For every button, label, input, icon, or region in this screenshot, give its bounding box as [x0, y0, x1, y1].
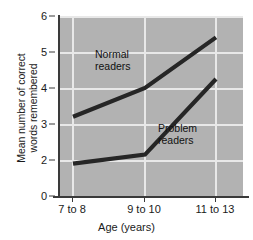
- y-tick-label-0: 0: [41, 191, 47, 202]
- y-tick-label-3: 3: [41, 119, 47, 130]
- x-tick-label-9-to-10: 9 to 10: [127, 204, 161, 215]
- y-tick-label-2: 2: [41, 155, 47, 166]
- plot-area: Normal readers Problem readers: [60, 16, 243, 196]
- x-axis-line: [53, 196, 249, 198]
- y-tick-mark-3: [49, 124, 55, 125]
- x-tick-mark-7-to-8: [72, 196, 73, 202]
- y-tick-mark-2: [49, 160, 55, 161]
- y-tick-label-6: 6: [41, 11, 47, 22]
- series-lines: [60, 16, 243, 196]
- y-tick-label-4: 4: [41, 83, 47, 94]
- x-tick-label-7-to-8: 7 to 8: [58, 204, 86, 215]
- y-axis-tick-labels: 6 5 4 3 2 0: [0, 0, 58, 240]
- series-line-problem-readers: [73, 79, 216, 164]
- x-axis-title: Age (years): [0, 222, 253, 233]
- y-tick-mark-5: [49, 52, 55, 53]
- y-tick-label-5: 5: [41, 47, 47, 58]
- y-tick-mark-4: [49, 88, 55, 89]
- x-tick-mark-11-to-13: [215, 196, 216, 202]
- y-tick-mark-6: [49, 16, 55, 17]
- x-tick-label-11-to-13: 11 to 13: [196, 204, 235, 215]
- chart-figure: Mean number of correct words remembered …: [0, 0, 253, 240]
- x-tick-mark-9-to-10: [144, 196, 145, 202]
- y-axis-line: [58, 15, 60, 197]
